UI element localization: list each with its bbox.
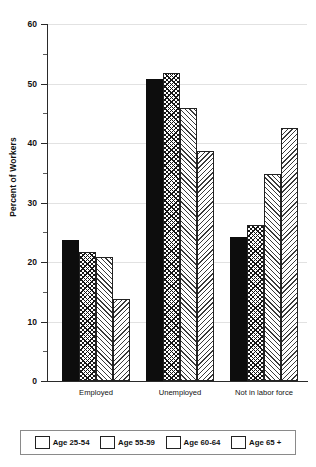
legend-swatch-icon [100,436,115,449]
legend-label: Age 55-59 [118,439,155,447]
legend-swatch-icon [231,436,246,449]
bar [62,240,79,381]
bar [146,79,163,381]
bar [113,299,130,381]
bar [230,237,247,381]
bar-chart: Percent of Workers 0102030405060 Employe… [0,0,316,467]
legend-label: Age 25-54 [53,439,90,447]
legend-swatch-icon [166,436,181,449]
bar [163,73,180,381]
x-axis-label-not-in-labor-force: Not in labor force [219,389,309,397]
x-axis-label-employed: Employed [51,389,141,397]
legend-swatch-icon [35,436,50,449]
legend-label: Age 65 + [249,439,281,447]
legend-item[interactable]: Age 25-54 [35,436,90,449]
bar [180,108,197,381]
bar [247,225,264,381]
x-axis-label-unemployed: Unemployed [135,389,225,397]
plot-area: Percent of Workers 0102030405060 Employe… [0,0,316,415]
bars-layer [0,0,316,415]
bar [96,257,113,381]
bar [79,252,96,381]
bar [281,128,298,381]
legend-item[interactable]: Age 60-64 [166,436,221,449]
legend-label: Age 60-64 [184,439,221,447]
bar [264,174,281,381]
chart-legend: Age 25-54Age 55-59Age 60-64Age 65 + [20,430,296,455]
bar [197,151,214,381]
legend-item[interactable]: Age 55-59 [100,436,155,449]
legend-item[interactable]: Age 65 + [231,436,281,449]
